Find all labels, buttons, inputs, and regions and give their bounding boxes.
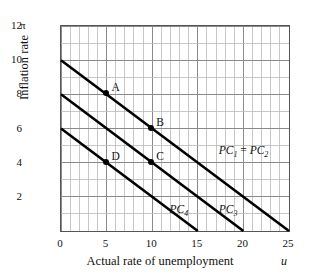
data-point-label-d: D bbox=[112, 151, 120, 163]
x-tick-label-10: 10 bbox=[136, 238, 166, 249]
x-tick-label-25: 25 bbox=[273, 238, 303, 249]
x-tick-label-5: 5 bbox=[91, 238, 121, 249]
curve-label-pc4: PC4 bbox=[169, 204, 188, 218]
data-point-c bbox=[148, 159, 154, 165]
y-tick-label-6: 6 bbox=[0, 123, 22, 134]
curve-label-pc1-pc2: PC1 = PC2 bbox=[219, 145, 269, 159]
curve-label-pc3: PC3 bbox=[219, 204, 238, 218]
y-tick-label-12: 12 bbox=[0, 20, 22, 31]
data-point-a bbox=[103, 90, 109, 96]
data-point-d bbox=[103, 159, 109, 165]
x-axis-title: Actual rate of unemployment bbox=[60, 254, 260, 269]
data-point-b bbox=[148, 125, 154, 131]
y-tick-label-8: 8 bbox=[0, 88, 22, 99]
y-tick-label-2: 2 bbox=[0, 191, 22, 202]
plot-area bbox=[60, 25, 290, 232]
data-point-label-b: B bbox=[156, 117, 164, 129]
x-tick-label-20: 20 bbox=[227, 238, 257, 249]
curve-lines bbox=[61, 26, 289, 231]
data-point-label-a: A bbox=[112, 82, 120, 94]
y-tick-label-10: 10 bbox=[0, 54, 22, 65]
y-tick-label-4: 4 bbox=[0, 157, 22, 168]
x-tick-label-0: 0 bbox=[45, 238, 75, 249]
data-point-label-c: C bbox=[156, 151, 164, 163]
x-tick-label-15: 15 bbox=[182, 238, 212, 249]
phillips-curve-chart: π Inflation rate Actual rate of unemploy… bbox=[0, 0, 316, 280]
x-axis-symbol: u bbox=[281, 254, 287, 269]
